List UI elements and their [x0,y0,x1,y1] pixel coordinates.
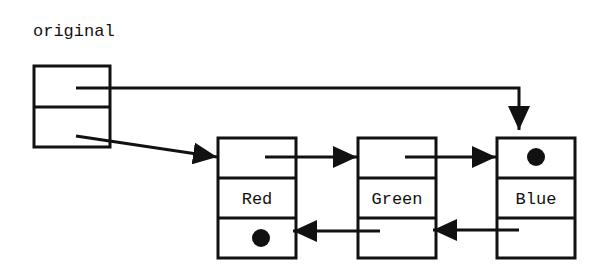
node-green-value: Green [371,190,422,209]
node-blue-value: Blue [516,190,557,209]
doubly-linked-list-diagram: original Red Green Blue [0,0,603,279]
null-prev-dot-icon [252,229,270,247]
node-blue: Blue [497,138,575,258]
node-red-value: Red [242,190,273,209]
head-last-arrow [76,88,519,130]
null-next-dot-icon [527,148,545,166]
head-box [34,66,110,147]
diagram-title: original [33,22,115,41]
